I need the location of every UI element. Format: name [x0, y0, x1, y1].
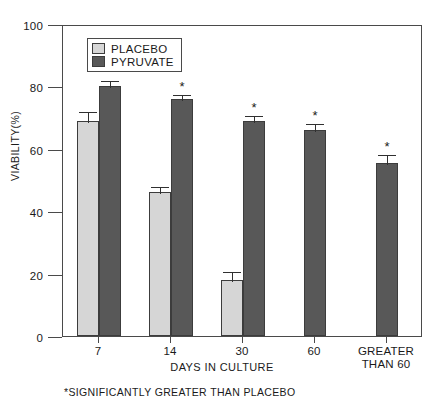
significance-asterisk: * — [179, 80, 184, 93]
x-label-line: 7 — [95, 345, 102, 358]
significance-footnote: *SIGNIFICANTLY GREATER THAN PLACEBO — [64, 386, 295, 398]
y-tick-100: 100 — [48, 25, 62, 26]
error-bar-cap — [245, 116, 263, 117]
error-bar-cap — [223, 272, 241, 273]
x-label-line: 30 — [235, 345, 248, 358]
significance-asterisk: * — [251, 101, 256, 114]
error-bar-cap — [79, 112, 97, 113]
bar-pyruvate-60 — [304, 130, 326, 336]
y-tick-label-80: 80 — [30, 82, 43, 94]
bar-pyruvate-14 — [171, 99, 193, 336]
error-bar-line — [232, 272, 233, 281]
x-tick-7 — [98, 337, 99, 343]
x-label-line: GREATER — [358, 345, 414, 358]
chart-legend: PLACEBO PYRUVATE — [87, 38, 182, 72]
legend-swatch-placebo-icon — [92, 43, 105, 54]
legend-item-placebo: PLACEBO — [92, 42, 174, 55]
x-label-line: 60 — [307, 345, 320, 358]
y-tick-40: 40 — [48, 212, 62, 213]
y-tick-label-40: 40 — [30, 207, 43, 219]
bar-pyruvate-greater-than-60 — [376, 163, 398, 336]
bar-placebo-30 — [221, 280, 243, 336]
bar-pyruvate-7 — [99, 86, 121, 336]
error-bar-cap — [151, 187, 169, 188]
y-tick-20: 20 — [48, 275, 62, 276]
significance-asterisk: * — [384, 140, 389, 153]
x-axis-title: DAYS IN CULTURE — [0, 361, 444, 373]
error-bar-cap — [173, 95, 191, 96]
y-tick-label-0: 0 — [36, 332, 43, 344]
viability-bar-chart-figure: VIABILITY(%) 020406080100 **** PLACEBO P… — [0, 0, 444, 403]
x-tick-60 — [314, 337, 315, 343]
bar-pyruvate-30 — [243, 121, 265, 336]
x-axis-label-30: 30 — [235, 345, 248, 358]
error-bar-line — [315, 124, 316, 132]
legend-item-pyruvate: PYRUVATE — [92, 55, 174, 68]
y-tick-0: 0 — [48, 337, 62, 338]
y-tick-80: 80 — [48, 87, 62, 88]
error-bar-cap — [101, 81, 119, 82]
x-axis-label-14: 14 — [163, 345, 176, 358]
error-bar-line — [160, 187, 161, 195]
bar-placebo-14 — [149, 192, 171, 336]
y-tick-60: 60 — [48, 150, 62, 151]
x-label-line: 14 — [163, 345, 176, 358]
significance-asterisk: * — [312, 109, 317, 122]
x-tick-14 — [170, 337, 171, 343]
x-axis-label-7: 7 — [95, 345, 102, 358]
error-bar-cap — [306, 124, 324, 125]
error-bar-line — [88, 112, 89, 123]
y-tick-label-20: 20 — [30, 270, 43, 282]
error-bar-line — [387, 155, 388, 164]
bar-placebo-7 — [77, 121, 99, 336]
y-tick-label-100: 100 — [23, 20, 43, 32]
legend-swatch-pyruvate-icon — [92, 56, 105, 67]
y-tick-label-60: 60 — [30, 145, 43, 157]
legend-label-pyruvate: PYRUVATE — [111, 56, 174, 68]
error-bar-line — [110, 81, 111, 89]
x-tick-30 — [242, 337, 243, 343]
x-axis-label-60: 60 — [307, 345, 320, 358]
y-axis-title: VIABILITY(%) — [9, 111, 21, 181]
x-tick-greater-than-60 — [386, 337, 387, 343]
legend-label-placebo: PLACEBO — [111, 43, 167, 55]
error-bar-cap — [378, 155, 396, 156]
